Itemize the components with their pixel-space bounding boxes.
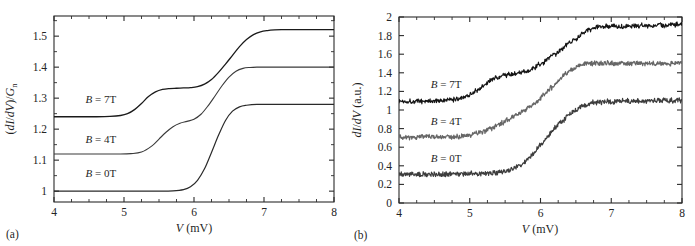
- y-tick-label: 1: [41, 185, 47, 197]
- x-tick-label: 7: [608, 207, 614, 219]
- curve-label: B = 7T: [431, 78, 462, 90]
- y-tick-label: 1.8: [378, 30, 393, 42]
- y-tick-label: 0.8: [378, 123, 393, 135]
- panel-a: 4567811.11.21.31.41.5B = 7TB = 4TB = 0TV…: [0, 0, 348, 246]
- x-tick-label: 8: [679, 207, 685, 219]
- x-tick-label: 4: [51, 206, 57, 218]
- curve-label: B = 0T: [86, 167, 117, 179]
- x-tick-label: 5: [467, 207, 473, 219]
- x-tick-label: 4: [396, 207, 402, 219]
- curve-label: B = 7T: [86, 93, 117, 105]
- y-axis-title: dI/dV (a.u.): [350, 82, 364, 137]
- y-tick-label: 1.2: [378, 85, 393, 97]
- y-tick-label: 2: [386, 11, 392, 23]
- y-tick-label: 1.2: [33, 123, 48, 135]
- x-tick-label: 6: [538, 207, 544, 219]
- y-tick-label: 0.4: [378, 160, 393, 172]
- x-axis-title: V (mV): [176, 221, 212, 235]
- x-tick-label: 8: [331, 206, 337, 218]
- panel-label: (b): [354, 229, 368, 242]
- panel-b-plot: 4567800.20.40.60.811.21.41.61.82B = 7TB …: [348, 0, 695, 246]
- x-tick-label: 5: [121, 206, 127, 218]
- y-tick-label: 1.4: [378, 67, 393, 79]
- y-tick-label: 1.5: [33, 30, 48, 42]
- x-tick-label: 6: [191, 206, 197, 218]
- curve-label: B = 4T: [431, 115, 462, 127]
- panel-label: (a): [6, 228, 19, 241]
- x-axis-title: V (mV): [522, 222, 558, 236]
- y-tick-label: 0.2: [378, 178, 393, 190]
- y-tick-label: 1.6: [378, 48, 393, 60]
- y-axis-ticks: 00.20.40.60.811.21.41.61.82: [378, 11, 682, 209]
- y-tick-label: 0: [386, 197, 392, 209]
- figure-container: 4567811.11.21.31.41.5B = 7TB = 4TB = 0TV…: [0, 0, 695, 246]
- y-tick-label: 1.1: [33, 154, 48, 166]
- x-tick-label: 7: [261, 206, 267, 218]
- y-tick-label: 1.3: [33, 92, 48, 104]
- panel-a-plot: 4567811.11.21.31.41.5B = 7TB = 4TB = 0TV…: [0, 0, 348, 246]
- y-tick-label: 1.4: [33, 61, 48, 73]
- curve-label: B = 4T: [86, 133, 117, 145]
- y-tick-label: 0.6: [378, 141, 393, 153]
- y-tick-label: 1: [386, 104, 392, 116]
- y-axis-title: (dI/dV)/Gn: [3, 83, 19, 135]
- curve-label: B = 0T: [431, 152, 462, 164]
- y-axis-ticks: 11.11.21.31.41.5: [33, 21, 334, 198]
- panel-b: 4567800.20.40.60.811.21.41.61.82B = 7TB …: [348, 0, 695, 246]
